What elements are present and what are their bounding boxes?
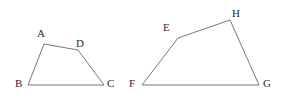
- vertex-label-f: F: [129, 78, 135, 89]
- vertex-label-d: D: [76, 38, 84, 49]
- quadrilateral-abcd-outline: [28, 44, 104, 85]
- vertex-label-a: A: [37, 28, 45, 39]
- vertex-label-c: C: [107, 78, 114, 89]
- vertex-label-b: B: [15, 78, 22, 89]
- vertex-label-h: H: [232, 8, 240, 19]
- vertex-label-g: G: [263, 78, 271, 89]
- geometry-figure-canvas: ADCBEHGF: [0, 0, 286, 104]
- vertex-label-e: E: [163, 22, 170, 33]
- quadrilateral-efgh-outline: [142, 20, 259, 85]
- geometry-diagram-svg: [0, 0, 286, 104]
